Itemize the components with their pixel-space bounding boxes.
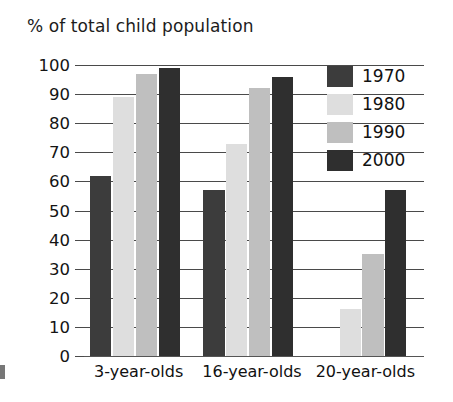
y-tick-label-0: 0 xyxy=(60,347,71,366)
y-tick-mark-60 xyxy=(75,181,84,182)
bar-1980-20-year-olds xyxy=(340,309,361,356)
legend-item-1980[interactable]: 1980 xyxy=(327,90,439,118)
y-axis: 0102030405060708090100 xyxy=(0,0,84,356)
legend-label-1970: 1970 xyxy=(362,66,405,86)
x-axis: 3-year-olds16-year-olds20-year-olds xyxy=(84,362,424,394)
legend-swatch-1980 xyxy=(327,94,353,115)
y-tick-label-70: 70 xyxy=(49,143,70,162)
y-tick-label-10: 10 xyxy=(49,317,70,336)
chart-legend: 1970198019902000 xyxy=(327,62,439,174)
y-tick-label-40: 40 xyxy=(49,230,70,249)
y-tick-mark-90 xyxy=(75,94,84,95)
bar-2000-16-year-olds xyxy=(272,77,293,356)
y-tick-mark-80 xyxy=(75,123,84,124)
y-tick-label-80: 80 xyxy=(49,114,70,133)
bar-1990-3-year-olds xyxy=(136,74,157,356)
bar-1990-20-year-olds xyxy=(362,254,383,356)
y-tick-mark-30 xyxy=(75,269,84,270)
y-tick-mark-10 xyxy=(75,327,84,328)
legend-swatch-1990 xyxy=(327,122,353,143)
legend-item-1990[interactable]: 1990 xyxy=(327,118,439,146)
page-edge-artifact xyxy=(0,365,5,379)
y-tick-mark-50 xyxy=(75,211,84,212)
y-tick-mark-70 xyxy=(75,152,84,153)
y-tick-label-50: 50 xyxy=(49,201,70,220)
y-tick-label-30: 30 xyxy=(49,259,70,278)
y-tick-label-20: 20 xyxy=(49,288,70,307)
bar-2000-20-year-olds xyxy=(385,190,406,356)
legend-swatch-1970 xyxy=(327,66,353,87)
legend-item-2000[interactable]: 2000 xyxy=(327,146,439,174)
y-tick-mark-0 xyxy=(75,356,84,357)
bar-1980-16-year-olds xyxy=(226,144,247,356)
bar-1970-16-year-olds xyxy=(203,190,224,356)
legend-label-1990: 1990 xyxy=(362,122,405,142)
x-tick-label-16-year-olds: 16-year-olds xyxy=(202,362,301,381)
bar-1980-3-year-olds xyxy=(113,97,134,356)
legend-label-2000: 2000 xyxy=(362,150,405,170)
y-tick-mark-100 xyxy=(75,65,84,66)
bar-chart: % of total child population 010203040506… xyxy=(0,0,453,402)
y-tick-mark-20 xyxy=(75,298,84,299)
y-tick-label-90: 90 xyxy=(49,85,70,104)
x-tick-label-3-year-olds: 3-year-olds xyxy=(94,362,183,381)
bar-1990-16-year-olds xyxy=(249,88,270,356)
legend-item-1970[interactable]: 1970 xyxy=(327,62,439,90)
legend-label-1980: 1980 xyxy=(362,94,405,114)
y-tick-label-100: 100 xyxy=(39,56,71,75)
y-tick-mark-40 xyxy=(75,240,84,241)
bar-2000-3-year-olds xyxy=(159,68,180,356)
gridline-0 xyxy=(84,356,424,357)
legend-swatch-2000 xyxy=(327,150,353,171)
x-tick-label-20-year-olds: 20-year-olds xyxy=(316,362,415,381)
y-tick-label-60: 60 xyxy=(49,172,70,191)
bar-1970-3-year-olds xyxy=(90,176,111,356)
